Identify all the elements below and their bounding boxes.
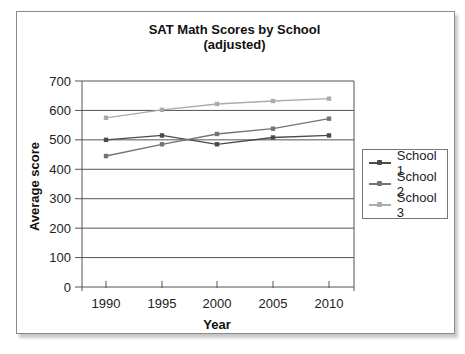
legend-swatch-school-1 — [369, 158, 391, 168]
data-point — [104, 154, 108, 158]
y-tick-label: 700 — [49, 74, 71, 89]
legend-item-school-3: School 3 — [363, 195, 447, 215]
y-tick-label: 300 — [49, 191, 71, 206]
legend-swatch-school-2 — [369, 179, 391, 189]
data-point — [327, 96, 331, 100]
y-tick-label: 400 — [49, 162, 71, 177]
data-point — [160, 108, 164, 112]
data-point — [104, 116, 108, 120]
x-tick-label: 2010 — [315, 296, 344, 311]
data-point — [271, 135, 275, 139]
legend: School 1 School 2 School 3 — [362, 149, 448, 219]
data-point — [271, 126, 275, 130]
data-point — [327, 116, 331, 120]
legend-label: School 3 — [397, 190, 447, 220]
data-point — [215, 102, 219, 106]
data-point — [160, 142, 164, 146]
x-tick-label: 2000 — [203, 296, 232, 311]
y-tick-label: 100 — [49, 250, 71, 265]
x-tick-label: 2005 — [259, 296, 288, 311]
data-point — [215, 142, 219, 146]
y-axis-label: Average score — [27, 122, 42, 252]
y-tick-label: 0 — [64, 280, 71, 295]
data-point — [160, 133, 164, 137]
x-tick-label: 1990 — [92, 296, 121, 311]
x-tick-label: 1995 — [148, 296, 177, 311]
data-point — [271, 99, 275, 103]
data-point — [104, 138, 108, 142]
series-line-school-3 — [106, 99, 329, 118]
data-point — [215, 132, 219, 136]
y-tick-label: 200 — [49, 221, 71, 236]
data-point — [327, 133, 331, 137]
y-tick-label: 600 — [49, 103, 71, 118]
x-axis-label: Year — [203, 317, 230, 332]
legend-swatch-school-3 — [369, 200, 391, 210]
y-tick-label: 500 — [49, 132, 71, 147]
